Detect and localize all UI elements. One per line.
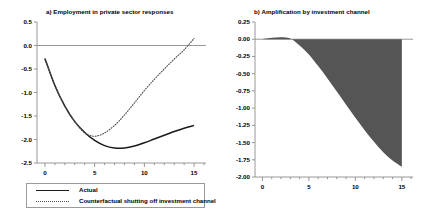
- x-axis-tick-label: 10: [132, 169, 156, 176]
- y-axis-tick-label: 0.25: [226, 18, 250, 25]
- y-axis-tick-label: 0.5: [8, 18, 32, 25]
- y-axis-tick-label: -0.5: [8, 65, 32, 72]
- x-axis-tick-label: 15: [390, 183, 414, 190]
- y-axis-tick-label: -1.25: [226, 121, 250, 128]
- y-axis-tick-label: 0.0: [8, 42, 32, 49]
- legend-item-counterfactual: Counterfactual shutting off investment c…: [27, 196, 204, 208]
- y-axis-tick-label: -0.75: [226, 87, 250, 94]
- legend-swatch-dotted-line-icon: [36, 201, 69, 202]
- figure-root: a) Employment in private sector response…: [0, 0, 425, 215]
- y-axis-tick-label: -2.5: [8, 159, 32, 166]
- y-axis-tick-label: -0.50: [226, 70, 250, 77]
- y-axis-tick-label: -1.50: [226, 139, 250, 146]
- y-axis-tick-label: -1.0: [8, 89, 32, 96]
- chart-panel-amplification: b) Amplification by investment channel 0…: [213, 0, 425, 215]
- y-axis-tick-label: -2.0: [8, 136, 32, 143]
- y-axis-tick-label: 0.00: [226, 35, 250, 42]
- legend-label-actual: Actual: [79, 186, 98, 193]
- x-axis-tick-label: 0: [250, 183, 274, 190]
- y-axis-tick-label: -2.00: [226, 173, 250, 180]
- x-axis-tick-label: 5: [297, 183, 321, 190]
- legend-label-counterfactual: Counterfactual shutting off investment c…: [79, 197, 216, 204]
- y-axis-tick-label: -1.75: [226, 156, 250, 163]
- legend: Actual Counterfactual shutting off inves…: [26, 183, 205, 208]
- y-axis-tick-label: -1.00: [226, 104, 250, 111]
- x-axis-tick-label: 5: [83, 169, 107, 176]
- x-axis-tick-label: 10: [343, 183, 367, 190]
- y-axis-tick-label: -0.25: [226, 52, 250, 59]
- legend-swatch-solid-line-icon: [36, 190, 69, 191]
- x-axis-tick-label: 15: [182, 169, 206, 176]
- x-axis-tick-label: 0: [33, 169, 57, 176]
- y-axis-tick-label: -1.5: [8, 112, 32, 119]
